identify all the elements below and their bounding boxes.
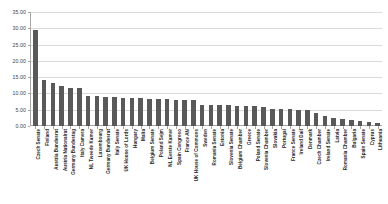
bar xyxy=(226,105,231,126)
x-axis-tick xyxy=(141,126,142,129)
x-axis-tick xyxy=(325,126,326,129)
bar-slot xyxy=(165,12,170,126)
x-axis-tick xyxy=(228,126,229,129)
bar-slot xyxy=(147,12,152,126)
x-axis-tick-label: NL Tweede Kamer xyxy=(90,129,95,169)
x-axis-tick xyxy=(44,126,45,129)
x-axis-tick xyxy=(106,126,107,129)
x-axis-tick xyxy=(193,126,194,129)
bar xyxy=(182,100,187,126)
bar-slot xyxy=(200,12,205,126)
bar-slot xyxy=(156,12,161,126)
bar xyxy=(103,97,108,126)
x-axis-tick-label: Lithuania xyxy=(379,129,384,150)
x-axis-tick-label: Finland xyxy=(46,129,51,146)
bar xyxy=(340,119,345,126)
bar xyxy=(323,116,328,126)
x-axis-tick-label: Bulgaria xyxy=(353,129,358,148)
bar xyxy=(244,106,249,126)
x-axis-tick-label: Italy Camera xyxy=(81,129,86,157)
bar-slot xyxy=(33,12,38,126)
bar-slot xyxy=(261,12,266,126)
bar xyxy=(314,113,319,126)
bar xyxy=(121,98,126,126)
x-axis-tick-label: Czech Chamber xyxy=(318,129,323,164)
bar xyxy=(191,100,196,126)
x-axis-tick-label: Malta xyxy=(142,129,147,141)
bar xyxy=(138,98,143,126)
bar xyxy=(165,99,170,126)
x-axis-tick xyxy=(149,126,150,129)
x-axis-tick-label: Estonia xyxy=(221,129,226,146)
bar xyxy=(217,105,222,126)
bar-slot xyxy=(59,12,64,126)
x-axis-tick-label: NL Eerste Kamer xyxy=(169,129,174,167)
x-axis-tick-label: Ireland Senate xyxy=(327,129,332,161)
bar-slot xyxy=(375,12,380,126)
bar-slot xyxy=(77,12,82,126)
x-axis-tick xyxy=(272,126,273,129)
bar-slot xyxy=(112,12,117,126)
x-axis-tick xyxy=(176,126,177,129)
x-axis-tick xyxy=(351,126,352,129)
x-axis-tick-label: Hungary xyxy=(134,129,139,148)
x-axis-tick-label: Romania Chamber xyxy=(344,129,349,170)
x-axis-tick-label: Germany Bundesrat xyxy=(107,129,112,174)
x-axis-tick xyxy=(62,126,63,129)
y-axis-tick xyxy=(28,61,30,62)
x-axis-labels: Czech SenateFinlandAustria BundesratAust… xyxy=(31,129,382,203)
x-axis-tick xyxy=(97,126,98,129)
bar xyxy=(86,96,91,126)
x-axis-tick xyxy=(237,126,238,129)
y-axis-tick xyxy=(28,110,30,111)
x-axis-tick xyxy=(334,126,335,129)
bar xyxy=(305,110,310,126)
x-axis-tick xyxy=(35,126,36,129)
x-axis-tick xyxy=(211,126,212,129)
bar xyxy=(200,105,205,126)
bar-slot xyxy=(331,12,336,126)
y-axis-tick-label: 10.00 xyxy=(13,90,26,96)
y-axis-tick-label: 15.00 xyxy=(13,74,26,80)
x-axis-tick-label: Austria Bundesrat xyxy=(55,129,60,170)
x-axis-tick-label: Cyprus xyxy=(371,129,376,145)
x-axis-tick-label: Poland Sejm xyxy=(160,129,165,157)
bar-slot xyxy=(349,12,354,126)
x-axis-tick-label: Luxembourg xyxy=(99,129,104,157)
bar-slot xyxy=(305,12,310,126)
y-axis-tick xyxy=(28,126,30,127)
bar xyxy=(261,107,266,126)
bar-slot xyxy=(191,12,196,126)
bar xyxy=(59,86,64,126)
bar-slot xyxy=(235,12,240,126)
x-axis-tick-label: Greece xyxy=(248,129,253,145)
bar xyxy=(252,106,257,126)
x-axis-tick-label: Belgium Chamber xyxy=(239,129,244,169)
x-axis-tick xyxy=(132,126,133,129)
y-axis-tick-label: 30.00 xyxy=(13,25,26,31)
bar-slot xyxy=(288,12,293,126)
bar-slot xyxy=(174,12,179,126)
x-axis-tick xyxy=(378,126,379,129)
y-axis-tick xyxy=(28,93,30,94)
x-axis-tick-label: Slovenia Chamber xyxy=(265,129,270,170)
bar-slot xyxy=(51,12,56,126)
bar-slot xyxy=(270,12,275,126)
y-axis-tick-label: 0.00 xyxy=(16,123,27,129)
x-axis-tick xyxy=(360,126,361,129)
bar xyxy=(130,98,135,126)
bar-slot xyxy=(182,12,187,126)
bar-slot xyxy=(279,12,284,126)
x-axis-tick xyxy=(202,126,203,129)
x-axis-tick xyxy=(246,126,247,129)
bar-slot xyxy=(314,12,319,126)
x-axis-tick xyxy=(79,126,80,129)
x-axis-tick xyxy=(264,126,265,129)
bar-slot xyxy=(244,12,249,126)
bar xyxy=(51,83,56,126)
x-axis-tick-label: Romania Senate xyxy=(213,129,218,165)
x-axis-tick-label: Slovakia xyxy=(274,129,279,148)
x-axis-tick xyxy=(343,126,344,129)
x-axis-tick xyxy=(114,126,115,129)
bar-chart: 0.005.0010.0015.0020.0025.0030.0035.00 C… xyxy=(0,0,388,204)
